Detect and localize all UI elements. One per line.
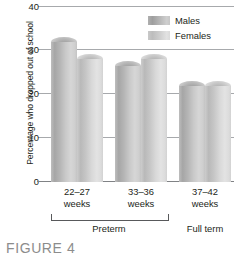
bar-males-22-27-weeks [51, 37, 77, 182]
bar-females-37-42-weeks [205, 81, 231, 182]
bar-females-33-36-weeks [141, 54, 167, 182]
bar-females-22-27-weeks [77, 54, 103, 182]
y-tick-label-10: 10 [29, 132, 39, 143]
figure-caption: FIGURE 4 [6, 240, 75, 256]
legend-label-females: Females [175, 30, 211, 41]
x-label-line1: 37–42 [171, 186, 239, 198]
x-label-33-36-weeks: 33–36 weeks [107, 186, 175, 209]
legend-item-males: Males [148, 14, 234, 27]
y-tick-label-40: 40 [29, 1, 39, 12]
x-label-line2: weeks [107, 198, 175, 210]
legend-swatch-males-icon [148, 16, 170, 25]
bracket-preterm [51, 214, 169, 221]
bar-body [179, 86, 205, 182]
legend-swatch-females-icon [148, 31, 170, 40]
chart-legend: Males Females [148, 14, 234, 44]
x-label-line1: 33–36 [107, 186, 175, 198]
y-tick-label-20: 20 [29, 88, 39, 99]
bar-body [77, 59, 103, 182]
bar-males-37-42-weeks [179, 81, 205, 182]
x-axis-labels: 22–27 weeks 33–36 weeks 37–42 weeks [43, 186, 234, 216]
y-tick-label-30: 30 [29, 44, 39, 55]
bar-body [205, 86, 231, 182]
legend-item-females: Females [148, 29, 234, 42]
bracket-label-full-term: Full term [173, 223, 237, 234]
x-label-line2: weeks [171, 198, 239, 210]
bracket-label-preterm: Preterm [51, 223, 167, 234]
legend-label-males: Males [175, 15, 200, 26]
x-label-22-27-weeks: 22–27 weeks [43, 186, 111, 209]
bar-body [51, 42, 77, 182]
x-label-37-42-weeks: 37–42 weeks [171, 186, 239, 209]
x-label-line1: 22–27 [43, 186, 111, 198]
x-label-line2: weeks [43, 198, 111, 210]
bar-body [115, 66, 141, 182]
bar-males-33-36-weeks [115, 61, 141, 182]
bar-body [141, 59, 167, 182]
